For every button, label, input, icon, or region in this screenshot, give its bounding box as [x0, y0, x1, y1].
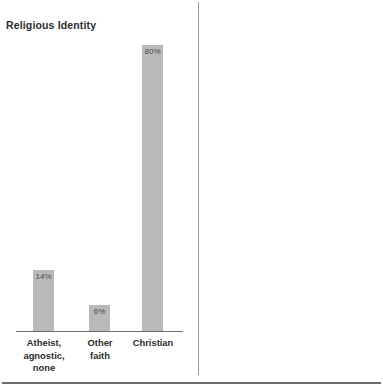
- bar-chart-axis-line: [16, 331, 183, 332]
- bar-christian: [142, 45, 163, 331]
- bar-chart-title: Religious Identity: [6, 19, 96, 31]
- bar-category-other-faith: Other faith: [73, 337, 127, 362]
- bar-value-christian: 80%: [142, 47, 163, 56]
- bar-category-christian: Christian: [121, 337, 185, 350]
- religious-identity-bar-chart: Religious Identity 14% Atheist, agnostic…: [0, 0, 198, 388]
- relationship-status-donut-chart: Relationship Status Married Single, neve…: [198, 0, 383, 388]
- bar-value-other-faith: 6%: [89, 307, 110, 316]
- bar-category-atheist-agnostic-none: Atheist, agnostic, none: [10, 337, 78, 375]
- bar-value-atheist-agnostic-none: 14%: [33, 272, 54, 281]
- two-panel-figure: Religious Identity 14% Atheist, agnostic…: [0, 0, 383, 388]
